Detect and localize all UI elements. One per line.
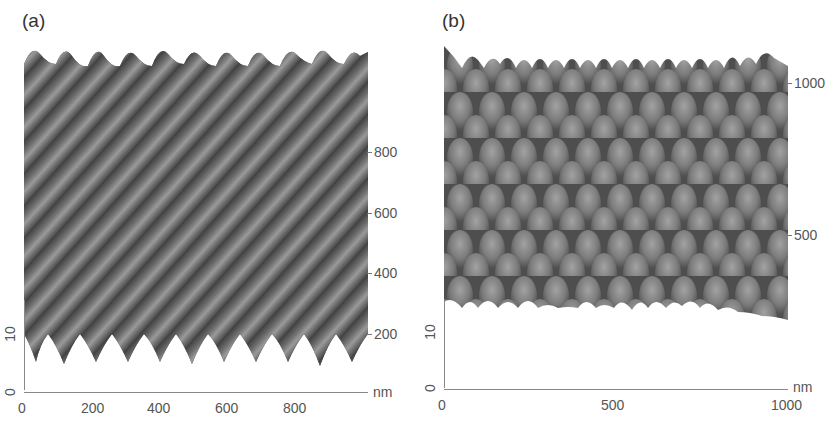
z-axis-b	[444, 300, 445, 388]
afm-surface-a	[24, 44, 368, 380]
y-tick-200-a: 200	[374, 326, 397, 342]
x-tick-600-a: 600	[215, 400, 238, 416]
y-tick-600-a: 600	[374, 205, 397, 221]
panel-a: (a) 10	[0, 0, 420, 426]
panel-label-a: (a)	[22, 10, 45, 32]
z-tick-0-a: 0	[2, 388, 18, 396]
y-tick-mark-400-a	[367, 273, 372, 274]
y-tick-mark-800-a	[367, 152, 372, 153]
y-tick-400-a: 400	[374, 265, 397, 281]
z-tick-0-b: 0	[422, 384, 438, 392]
panel-b: (b)	[420, 0, 840, 426]
afm-surface-b	[444, 46, 788, 376]
x-tick-800-a: 800	[283, 400, 306, 416]
y-tick-mark-500-b	[787, 235, 792, 236]
z-tick-10-b: 10	[422, 324, 438, 340]
panel-label-b: (b)	[442, 10, 465, 32]
y-tick-mark-200-a	[367, 334, 372, 335]
x-tick-0-b: 0	[438, 397, 446, 413]
y-tick-mark-600-a	[367, 213, 372, 214]
x-tick-500-b: 500	[601, 397, 624, 413]
x-tick-0-a: 0	[18, 400, 26, 416]
axis-unit-b: nm	[793, 379, 812, 395]
x-tick-200-a: 200	[81, 400, 104, 416]
z-tick-10-a: 10	[2, 326, 18, 342]
z-axis-a	[24, 300, 25, 390]
x-axis-a	[24, 392, 368, 393]
x-axis-b	[444, 389, 788, 390]
y-tick-500-b: 500	[794, 227, 817, 243]
x-tick-1000-b: 1000	[771, 397, 802, 413]
y-tick-1000-b: 1000	[794, 75, 825, 91]
y-tick-mark-1000-b	[787, 83, 792, 84]
y-tick-800-a: 800	[374, 144, 397, 160]
axis-unit-a: nm	[373, 384, 392, 400]
x-tick-400-a: 400	[147, 400, 170, 416]
